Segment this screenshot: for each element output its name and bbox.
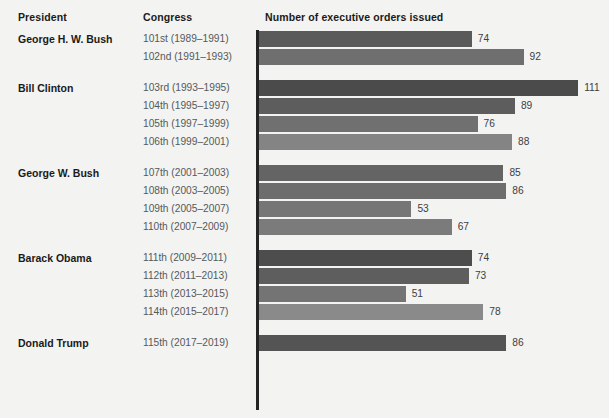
chart-row: 115th (2017–2019)86 <box>0 334 609 352</box>
chart-row: 101st (1989–1991)74 <box>0 30 609 48</box>
bar <box>259 31 472 47</box>
executive-orders-chart: President Congress Number of executive o… <box>0 0 609 418</box>
bar-track: 85 <box>259 165 609 181</box>
congress-label: 101st (1989–1991) <box>143 30 229 48</box>
bar-value-label: 51 <box>412 286 423 302</box>
bar-value-label: 85 <box>509 165 520 181</box>
bar <box>259 134 512 150</box>
chart-row: 109th (2005–2007)53 <box>0 200 609 218</box>
chart-row: 102nd (1991–1993)92 <box>0 48 609 66</box>
congress-label: 114th (2015–2017) <box>143 303 228 321</box>
bar <box>259 250 472 266</box>
bar-value-label: 111 <box>584 80 599 96</box>
bar-value-label: 74 <box>478 31 489 47</box>
bar <box>259 219 452 235</box>
president-group: Bill Clinton103rd (1993–1995)111104th (1… <box>0 79 609 151</box>
group-separator <box>0 151 609 164</box>
bar <box>259 116 478 132</box>
bar-value-label: 86 <box>512 335 523 351</box>
chart-row: 105th (1997–1999)76 <box>0 115 609 133</box>
bar <box>259 201 411 217</box>
group-separator <box>0 321 609 334</box>
bar <box>259 80 578 96</box>
bar-track: 78 <box>259 304 609 320</box>
congress-label: 111th (2009–2011) <box>143 249 227 267</box>
congress-label: 106th (1999–2001) <box>143 133 229 151</box>
bar-value-label: 73 <box>475 268 486 284</box>
bar-track: 74 <box>259 250 609 266</box>
bar-value-label: 53 <box>417 201 428 217</box>
bar <box>259 304 483 320</box>
bar-track: 111 <box>259 80 609 96</box>
congress-label: 108th (2003–2005) <box>143 182 229 200</box>
bar-track: 89 <box>259 98 609 114</box>
chart-row: 107th (2001–2003)85 <box>0 164 609 182</box>
bar-track: 73 <box>259 268 609 284</box>
congress-label: 105th (1997–1999) <box>143 115 229 133</box>
congress-label: 110th (2007–2009) <box>143 218 228 236</box>
bar <box>259 98 515 114</box>
bar <box>259 335 506 351</box>
chart-row: 103rd (1993–1995)111 <box>0 79 609 97</box>
bar-track: 92 <box>259 49 609 65</box>
chart-row: 114th (2015–2017)78 <box>0 303 609 321</box>
bar-track: 86 <box>259 183 609 199</box>
chart-groups: George H. W. Bush101st (1989–1991)74102n… <box>0 30 609 352</box>
president-group: George W. Bush107th (2001–2003)85108th (… <box>0 164 609 236</box>
bar <box>259 183 506 199</box>
bar-value-label: 88 <box>518 134 529 150</box>
chart-row: 113th (2013–2015)51 <box>0 285 609 303</box>
congress-label: 113th (2013–2015) <box>143 285 228 303</box>
bar-value-label: 76 <box>484 116 495 132</box>
bar-track: 53 <box>259 201 609 217</box>
chart-row: 108th (2003–2005)86 <box>0 182 609 200</box>
bar-value-label: 67 <box>458 219 469 235</box>
bar <box>259 49 524 65</box>
bar-track: 86 <box>259 335 609 351</box>
column-header-orders: Number of executive orders issued <box>265 11 443 23</box>
chart-row: 106th (1999–2001)88 <box>0 133 609 151</box>
chart-row: 111th (2009–2011)74 <box>0 249 609 267</box>
president-group: Barack Obama111th (2009–2011)74112th (20… <box>0 249 609 321</box>
group-separator <box>0 66 609 79</box>
bar-value-label: 89 <box>521 98 532 114</box>
bar-value-label: 78 <box>489 304 500 320</box>
congress-label: 109th (2005–2007) <box>143 200 229 218</box>
bar <box>259 268 469 284</box>
chart-row: 104th (1995–1997)89 <box>0 97 609 115</box>
chart-row: 110th (2007–2009)67 <box>0 218 609 236</box>
congress-label: 104th (1995–1997) <box>143 97 229 115</box>
president-group: George H. W. Bush101st (1989–1991)74102n… <box>0 30 609 66</box>
bar-track: 51 <box>259 286 609 302</box>
bar-value-label: 86 <box>512 183 523 199</box>
group-separator <box>0 236 609 249</box>
bar <box>259 286 406 302</box>
congress-label: 112th (2011–2013) <box>143 267 228 285</box>
bar-track: 67 <box>259 219 609 235</box>
bar-value-label: 92 <box>530 49 541 65</box>
column-header-president: President <box>18 11 67 23</box>
congress-label: 103rd (1993–1995) <box>143 79 230 97</box>
congress-label: 107th (2001–2003) <box>143 164 229 182</box>
bar-value-label: 74 <box>478 250 489 266</box>
column-header-congress: Congress <box>143 11 192 23</box>
congress-label: 115th (2017–2019) <box>143 334 228 352</box>
bar-track: 74 <box>259 31 609 47</box>
president-group: Donald Trump115th (2017–2019)86 <box>0 334 609 352</box>
bar-track: 76 <box>259 116 609 132</box>
congress-label: 102nd (1991–1993) <box>143 48 232 66</box>
bar <box>259 165 503 181</box>
bar-track: 88 <box>259 134 609 150</box>
column-header-row: President Congress Number of executive o… <box>0 11 609 27</box>
chart-row: 112th (2011–2013)73 <box>0 267 609 285</box>
